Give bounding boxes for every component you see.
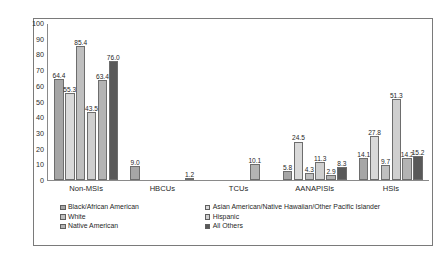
- bar-slot: 8.3: [337, 24, 347, 180]
- bar-value-label: 55.3: [63, 87, 76, 94]
- legend-column-left: Black/African AmericanWhiteNative Americ…: [60, 204, 205, 242]
- legend-column-right: Asian American/Native Hawaiian/Other Pac…: [205, 204, 420, 242]
- bar-value-label: 76.0: [107, 55, 120, 62]
- bar-slot: 10.1: [250, 24, 260, 180]
- bar-value-label: 1.2: [185, 172, 194, 179]
- bar-slot: [228, 24, 238, 180]
- bar-value-label: 2.9: [326, 169, 335, 176]
- bar[interactable]: 5.8: [283, 171, 293, 180]
- chart-screenshot: 1009080706050403020100 64.455.385.443.56…: [0, 0, 448, 274]
- bar-group: 5.824.54.311.32.98.3: [277, 24, 353, 180]
- bar-value-label: 15.2: [412, 150, 425, 157]
- bar[interactable]: 64.4: [54, 79, 64, 180]
- legend-swatch-icon: [205, 214, 211, 220]
- bar-slot: [163, 24, 173, 180]
- bar[interactable]: 15.2: [413, 156, 423, 180]
- y-tick-label: 70: [18, 67, 44, 74]
- bar-slot: 4.3: [305, 24, 315, 180]
- bar-group: 9.01.2: [124, 24, 200, 180]
- plot-area: 64.455.385.443.563.476.09.01.210.15.824.…: [47, 24, 429, 181]
- bar[interactable]: 63.4: [98, 80, 108, 180]
- bar[interactable]: 9.0: [130, 166, 140, 180]
- bar-slot: 15.2: [413, 24, 423, 180]
- legend-label: Black/African American: [68, 204, 139, 211]
- bar-value-label: 27.8: [368, 130, 381, 137]
- bar-value-label: 63.4: [96, 74, 109, 81]
- bar[interactable]: 10.1: [250, 164, 260, 180]
- bar[interactable]: 43.5: [87, 112, 97, 180]
- legend-swatch-icon: [205, 205, 211, 211]
- bar-value-label: 11.3: [314, 156, 326, 163]
- bar-slot: [174, 24, 184, 180]
- bar[interactable]: 8.3: [337, 167, 347, 180]
- bar[interactable]: 2.9: [326, 175, 336, 180]
- bar-slot: [152, 24, 162, 180]
- bar-slot: [207, 24, 217, 180]
- bar[interactable]: 14.1: [359, 158, 369, 180]
- bar-slot: 55.3: [65, 24, 75, 180]
- bar[interactable]: 9.7: [381, 165, 391, 180]
- chart-legend: Black/African AmericanWhiteNative Americ…: [60, 204, 420, 242]
- bar-slot: 51.3: [392, 24, 402, 180]
- legend-item[interactable]: All Others: [205, 223, 420, 230]
- bar-slot: 14.2: [402, 24, 412, 180]
- bar[interactable]: 85.4: [76, 46, 86, 180]
- x-category-label: AANAPISIs: [277, 185, 353, 199]
- bar-group: 10.1: [200, 24, 276, 180]
- bar-value-label: 4.3: [305, 167, 314, 174]
- legend-swatch-icon: [60, 224, 66, 230]
- legend-item[interactable]: Asian American/Native Hawaiian/Other Pac…: [205, 204, 420, 211]
- y-tick-label: 30: [18, 130, 44, 137]
- bar[interactable]: 11.3: [315, 162, 325, 180]
- legend-item[interactable]: Black/African American: [60, 204, 205, 211]
- bar[interactable]: 1.2: [185, 178, 195, 180]
- bar[interactable]: 4.3: [305, 173, 315, 180]
- legend-label: Asian American/Native Hawaiian/Other Pac…: [213, 204, 380, 211]
- legend-label: Native American: [68, 223, 118, 230]
- x-category-label: HSIs: [353, 185, 429, 199]
- bar[interactable]: 76.0: [109, 61, 119, 180]
- bar-slot: 43.5: [87, 24, 97, 180]
- legend-item[interactable]: White: [60, 214, 205, 221]
- y-tick-label: 10: [18, 162, 44, 169]
- bar[interactable]: 55.3: [65, 93, 75, 180]
- legend-item[interactable]: Hispanic: [205, 214, 420, 221]
- legend-swatch-icon: [60, 205, 66, 211]
- bar[interactable]: 14.2: [402, 158, 412, 180]
- legend-label: All Others: [213, 223, 243, 230]
- bar-value-label: 64.4: [52, 73, 65, 80]
- bar-value-label: 43.5: [85, 106, 98, 113]
- bar-slot: 1.2: [185, 24, 195, 180]
- x-category-label: Non-MSIs: [48, 185, 124, 199]
- bar[interactable]: 24.5: [294, 142, 304, 180]
- bar-value-label: 10.1: [248, 158, 261, 165]
- bar-groups: 64.455.385.443.563.476.09.01.210.15.824.…: [48, 24, 429, 180]
- y-axis-tick-labels: 1009080706050403020100: [18, 24, 44, 181]
- x-category-label: HBCUs: [124, 185, 200, 199]
- bar-slot: [239, 24, 249, 180]
- legend-swatch-icon: [60, 214, 66, 220]
- x-axis-line: [47, 180, 429, 181]
- bar-value-label: 51.3: [390, 93, 403, 100]
- bar-value-label: 14.1: [357, 152, 370, 159]
- bar[interactable]: 51.3: [392, 99, 402, 180]
- bar-value-label: 24.5: [292, 135, 305, 142]
- bar-slot: 11.3: [315, 24, 325, 180]
- y-tick-label: 80: [18, 52, 44, 59]
- bar-slot: 9.0: [130, 24, 140, 180]
- y-tick-label: 60: [18, 83, 44, 90]
- bar-slot: 64.4: [54, 24, 64, 180]
- bar-slot: 27.8: [370, 24, 380, 180]
- bar-slot: [141, 24, 151, 180]
- legend-swatch-icon: [205, 224, 211, 230]
- bar[interactable]: 27.8: [370, 136, 380, 180]
- legend-label: White: [68, 214, 86, 221]
- bar-slot: 5.8: [283, 24, 293, 180]
- bar-slot: 9.7: [381, 24, 391, 180]
- bar-slot: 24.5: [294, 24, 304, 180]
- bar-group: 64.455.385.443.563.476.0: [48, 24, 124, 180]
- y-tick-label: 20: [18, 146, 44, 153]
- legend-item[interactable]: Native American: [60, 223, 205, 230]
- bar-group: 14.127.89.751.314.215.2: [353, 24, 429, 180]
- legend-label: Hispanic: [213, 214, 239, 221]
